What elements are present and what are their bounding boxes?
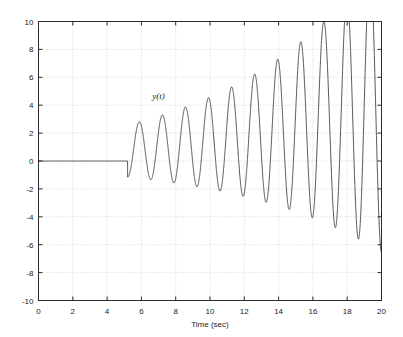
- x-tick-label: 20: [377, 307, 386, 316]
- x-axis-title: Time (sec): [191, 320, 229, 329]
- line-chart: 02468101214161820 -10-8-6-4-20246810 Tim…: [0, 0, 403, 337]
- y-tick-label: 8: [29, 45, 34, 54]
- x-tick-label: 16: [308, 307, 317, 316]
- y-tick-label: -8: [26, 269, 34, 278]
- x-tick-label: 4: [105, 307, 110, 316]
- y-tick-label: -6: [26, 241, 34, 250]
- y-tick-label: 4: [29, 101, 34, 110]
- y-tick-label: -10: [22, 297, 34, 306]
- curve-annotations: y(t): [151, 91, 165, 101]
- y-tick-label: 2: [29, 129, 34, 138]
- x-tick-label: 8: [173, 307, 178, 316]
- x-tick-label: 18: [343, 307, 352, 316]
- y-tick-label: -4: [26, 213, 34, 222]
- x-tick-label: 6: [139, 307, 144, 316]
- figure-canvas: 02468101214161820 -10-8-6-4-20246810 Tim…: [0, 0, 403, 337]
- x-tick-label: 10: [206, 307, 215, 316]
- y-tick-label: -2: [26, 185, 34, 194]
- y-tick-label: 0: [29, 157, 34, 166]
- chart-background: [0, 0, 403, 337]
- series-label-annotation: y(t): [151, 91, 165, 101]
- y-tick-label: 6: [29, 73, 34, 82]
- x-tick-label: 14: [274, 307, 283, 316]
- x-tick-label: 0: [36, 307, 41, 316]
- y-tick-label: 10: [25, 18, 34, 27]
- x-tick-label: 2: [71, 307, 76, 316]
- x-tick-label: 12: [240, 307, 249, 316]
